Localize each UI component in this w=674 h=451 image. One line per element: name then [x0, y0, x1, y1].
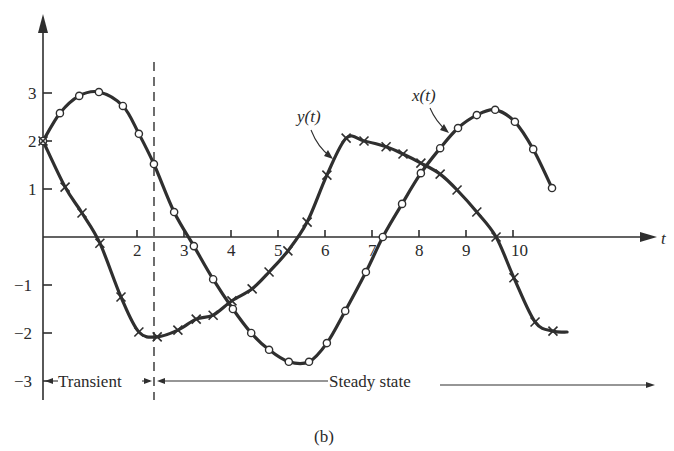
- transient-right-arrow-icon: [144, 378, 152, 384]
- circle-marker-icon: [305, 358, 312, 365]
- cross-marker-icon: [248, 284, 257, 293]
- x-tick-label: 2: [133, 241, 142, 260]
- circle-marker-icon: [150, 160, 157, 167]
- x-curve-label: x(t): [411, 86, 449, 133]
- y-tick-label: −1: [14, 276, 32, 295]
- transient-annotation: Transient: [45, 372, 152, 391]
- circle-marker-icon: [190, 243, 197, 250]
- steady-state-annotation: Steady state: [157, 372, 655, 391]
- circle-marker-icon: [95, 88, 102, 95]
- x-label-text: x(t): [411, 86, 436, 105]
- circle-marker-icon: [398, 200, 405, 207]
- x-tick-label: 9: [462, 241, 471, 260]
- x-tick-label: 3: [180, 241, 189, 260]
- circle-marker-icon: [265, 346, 272, 353]
- x-tick-label: 4: [227, 241, 236, 260]
- circle-marker-icon: [248, 329, 255, 336]
- figure-caption: (b): [314, 427, 334, 446]
- circle-marker-icon: [56, 110, 63, 117]
- steady-state-label: Steady state: [329, 372, 411, 391]
- circle-marker-icon: [119, 102, 126, 109]
- y-label-arrowhead-icon: [324, 150, 333, 159]
- chart-canvas: t 2345678910321−1−2−3 y(t) x(t) Transien…: [0, 0, 674, 451]
- circle-marker-icon: [362, 268, 369, 275]
- cross-marker-icon: [472, 208, 481, 217]
- cross-marker-icon: [265, 268, 274, 277]
- circle-marker-icon: [454, 124, 461, 131]
- circle-marker-icon: [342, 307, 349, 314]
- circle-marker-icon: [473, 111, 480, 118]
- cross-marker-icon: [531, 317, 540, 326]
- circle-marker-icon: [511, 118, 518, 125]
- circle-marker-icon: [492, 106, 499, 113]
- x-tick-label: 10: [511, 241, 528, 260]
- circle-marker-icon: [437, 145, 444, 152]
- y-axis: [38, 14, 48, 400]
- y-tick-label: 3: [28, 84, 37, 103]
- cross-marker-icon: [453, 185, 462, 194]
- cross-marker-icon: [436, 170, 445, 179]
- circle-marker-icon: [135, 130, 142, 137]
- circle-marker-icon: [171, 208, 178, 215]
- x-axis-arrow-icon: [640, 232, 657, 242]
- circle-marker-icon: [530, 146, 537, 153]
- y-tick-label: 2: [28, 132, 37, 151]
- y-label-text: y(t): [295, 107, 321, 126]
- cross-marker-icon: [342, 134, 351, 143]
- cross-marker-icon: [78, 209, 87, 218]
- circle-marker-icon: [285, 358, 292, 365]
- circle-marker-icon: [379, 233, 386, 240]
- circle-marker-icon: [210, 276, 217, 283]
- y-tick-label: −3: [14, 372, 32, 391]
- circle-marker-icon: [229, 305, 236, 312]
- circle-marker-icon: [323, 339, 330, 346]
- x-markers: [39, 88, 555, 365]
- cross-marker-icon: [134, 328, 143, 337]
- x-tick-label: 8: [415, 241, 424, 260]
- y-axis-arrow-icon: [38, 14, 48, 33]
- circle-marker-icon: [417, 170, 424, 177]
- circle-marker-icon: [548, 184, 555, 191]
- x-tick-label: 6: [321, 241, 330, 260]
- x-curve: [43, 91, 552, 363]
- steady-right-arrow-icon: [646, 382, 655, 388]
- y-tick-label: 1: [28, 180, 37, 199]
- x-axis-label: t: [661, 229, 667, 248]
- transient-label: Transient: [58, 372, 122, 391]
- circle-marker-icon: [76, 92, 83, 99]
- y-curve-label: y(t): [295, 107, 333, 159]
- y-tick-label: −2: [14, 324, 32, 343]
- cross-marker-icon: [283, 246, 292, 255]
